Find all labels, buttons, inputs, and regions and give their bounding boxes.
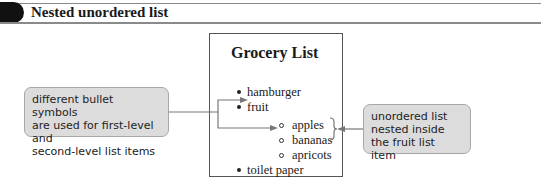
nested-list-item: apples	[279, 118, 324, 132]
browser-render-box: Grocery List hamburger fruit apples bana…	[209, 33, 343, 177]
header-title: Nested unordered list	[31, 3, 168, 22]
disc-bullet-icon	[237, 168, 241, 172]
circle-bullet-icon	[279, 138, 284, 143]
header-tab-marker	[0, 2, 24, 23]
nested-list-item: bananas	[279, 133, 332, 147]
list-item: hamburger	[237, 85, 301, 99]
circle-bullet-icon	[279, 153, 284, 158]
callout-bullet-symbols: different bullet symbols are used for fi…	[24, 87, 169, 137]
callout-nested-list: unordered list nested inside the fruit l…	[363, 104, 471, 154]
list-item: fruit	[237, 100, 269, 114]
header-rule-bottom	[0, 22, 541, 24]
page-heading: Grocery List	[231, 44, 318, 62]
nested-list-item: apricots	[279, 148, 332, 162]
list-item: toilet paper	[237, 163, 304, 177]
disc-bullet-icon	[237, 105, 241, 109]
circle-bullet-icon	[279, 123, 284, 128]
disc-bullet-icon	[237, 90, 241, 94]
